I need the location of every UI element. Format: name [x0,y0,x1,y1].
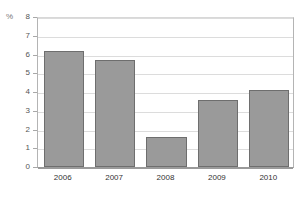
y-axis-tick-label: 1 [0,144,30,152]
x-axis-tick-label: 2009 [191,174,242,182]
y-axis-tick-label: 8 [0,13,30,21]
y-axis-tick-label: 6 [0,51,30,59]
y-axis-tick-label: 4 [0,88,30,96]
x-axis-tick-label: 2006 [37,174,88,182]
y-axis-tick-label: 5 [0,69,30,77]
bar[interactable] [198,100,238,168]
bar[interactable] [146,137,186,167]
bar[interactable] [95,60,135,167]
chart-title-strip [8,0,208,6]
x-axis-tick-label: 2007 [88,174,139,182]
bar[interactable] [44,51,84,167]
y-axis-tick-label: 0 [0,163,30,171]
bar[interactable] [249,90,289,167]
gridline [38,18,293,19]
gridline [38,168,293,169]
x-axis-tick-label: 2008 [140,174,191,182]
y-axis-tick-label: 2 [0,126,30,134]
y-axis-tick-label: 7 [0,32,30,40]
bar-chart: % 876543210 20062007200820092010 [0,0,299,200]
x-axis-tick-label: 2010 [243,174,294,182]
plot-area [37,17,294,168]
gridline [38,37,293,38]
y-axis-tick-label: 3 [0,107,30,115]
